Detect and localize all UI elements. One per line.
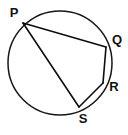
chord-rs	[79, 83, 103, 107]
chord-pq	[23, 23, 106, 47]
point-label-r: R	[109, 79, 119, 94]
chord-qr	[103, 47, 106, 83]
point-label-p: P	[10, 5, 19, 20]
circle-outline	[8, 11, 112, 115]
circle-geometry-diagram: P Q R S	[0, 0, 128, 135]
geometry-figure: P Q R S	[0, 0, 128, 135]
point-label-q: Q	[112, 32, 122, 47]
chord-ps	[23, 23, 79, 107]
point-label-s: S	[79, 111, 88, 126]
